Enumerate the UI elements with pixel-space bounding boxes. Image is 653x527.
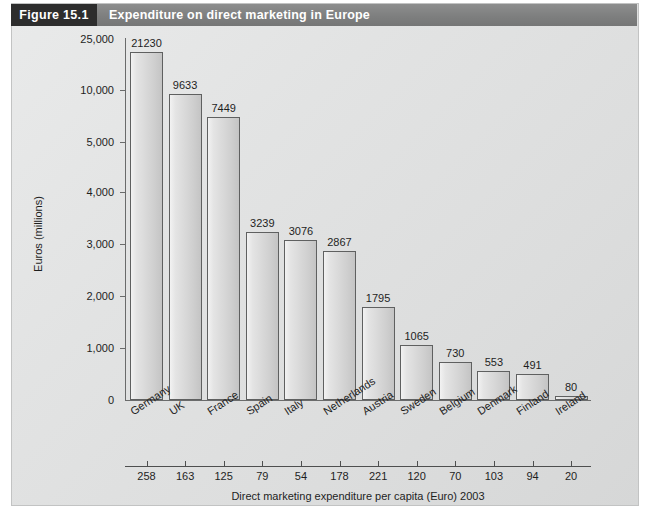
y-axis-tick-mark bbox=[120, 296, 126, 297]
bar-value-label: 9633 bbox=[157, 79, 214, 91]
per-capita-tick-mark bbox=[147, 461, 148, 466]
y-tick-text: 25,000 bbox=[80, 33, 114, 45]
per-capita-tick-mark bbox=[262, 461, 263, 466]
per-capita-axis-line bbox=[125, 466, 591, 467]
bar-germany[interactable] bbox=[130, 52, 163, 400]
y-axis-tick-mark bbox=[120, 244, 126, 245]
y-tick-text: 4,000 bbox=[86, 186, 114, 198]
bar-netherlands[interactable] bbox=[323, 251, 356, 400]
y-tick-text: 5,000 bbox=[86, 136, 114, 148]
bar-france[interactable] bbox=[207, 117, 240, 400]
per-capita-tick-mark bbox=[224, 461, 225, 466]
per-capita-tick-mark bbox=[533, 461, 534, 466]
per-capita-value: 79 bbox=[242, 470, 282, 482]
chart-plot-area: Euros (millions) 25,00010,0005,0004,0003… bbox=[0, 0, 653, 527]
per-capita-value: 178 bbox=[320, 470, 360, 482]
y-tick-text: 0 bbox=[108, 394, 114, 406]
y-axis-line bbox=[125, 38, 126, 401]
per-capita-value: 20 bbox=[551, 470, 591, 482]
figure-container: Figure 15.1 Expenditure on direct market… bbox=[0, 0, 653, 527]
per-capita-value: 94 bbox=[513, 470, 553, 482]
per-capita-tick-mark bbox=[378, 461, 379, 466]
per-capita-tick-mark bbox=[571, 461, 572, 466]
per-capita-value: 221 bbox=[358, 470, 398, 482]
category-label-uk: UK bbox=[167, 399, 186, 417]
per-capita-tick-mark bbox=[340, 461, 341, 466]
bar-value-label: 80 bbox=[543, 381, 600, 393]
per-capita-tick-mark bbox=[301, 461, 302, 466]
bar-value-label: 1795 bbox=[350, 292, 407, 304]
bar-value-label: 491 bbox=[504, 359, 561, 371]
y-axis-tick-mark bbox=[120, 192, 126, 193]
bar-value-label: 7449 bbox=[195, 102, 252, 114]
per-capita-value: 258 bbox=[127, 470, 167, 482]
per-capita-tick-mark bbox=[494, 461, 495, 466]
y-axis-title: Euros (millions) bbox=[32, 154, 44, 314]
per-capita-tick-mark bbox=[185, 461, 186, 466]
per-capita-value: 103 bbox=[474, 470, 514, 482]
bar-value-label: 1065 bbox=[388, 330, 445, 342]
bar-value-label: 21230 bbox=[118, 37, 175, 49]
y-axis-tick-mark bbox=[120, 90, 126, 91]
y-axis-tick-mark bbox=[120, 348, 126, 349]
per-capita-tick-mark bbox=[417, 461, 418, 466]
per-capita-value: 163 bbox=[165, 470, 205, 482]
x-axis-title: Direct marketing expenditure per capita … bbox=[125, 490, 591, 502]
per-capita-value: 70 bbox=[435, 470, 475, 482]
bar-spain[interactable] bbox=[246, 232, 279, 400]
per-capita-value: 120 bbox=[397, 470, 437, 482]
y-axis-tick-mark bbox=[120, 142, 126, 143]
per-capita-value: 54 bbox=[281, 470, 321, 482]
per-capita-value: 125 bbox=[204, 470, 244, 482]
y-tick-text: 10,000 bbox=[80, 84, 114, 96]
per-capita-tick-mark bbox=[455, 461, 456, 466]
y-tick-text: 2,000 bbox=[86, 290, 114, 302]
bar-italy[interactable] bbox=[284, 240, 317, 400]
bar-value-label: 2867 bbox=[311, 236, 368, 248]
bar-uk[interactable] bbox=[169, 94, 202, 400]
category-label-ireland: Ireland bbox=[553, 389, 588, 417]
y-tick-text: 1,000 bbox=[86, 342, 114, 354]
y-tick-text: 3,000 bbox=[86, 238, 114, 250]
